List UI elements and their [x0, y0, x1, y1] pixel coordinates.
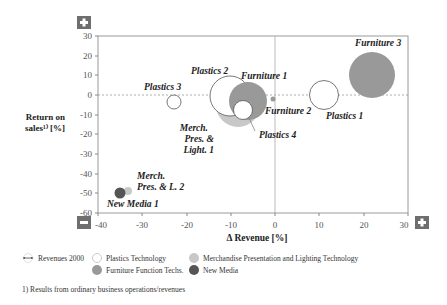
legend-item-newmedia: New Media: [189, 265, 238, 275]
x-tick: -10: [225, 220, 237, 230]
furniture-swatch-icon: [92, 265, 102, 275]
label-plastics-4: Plastics 4: [259, 130, 296, 140]
y-tick: 0: [88, 90, 93, 100]
legend-item-plastics: Plastics Technology: [92, 253, 166, 263]
x-tick: 20: [360, 220, 370, 230]
legend-item-merch: Merchandise Presentation and Lighting Te…: [189, 253, 358, 263]
label-merch-1-line1: Merch.: [179, 123, 208, 133]
label-furniture-3: Furniture 3: [354, 38, 401, 48]
x-axis: -40 -30 -20 -10 0 10 20 30: [95, 213, 409, 230]
newmedia-swatch-icon: [189, 265, 199, 275]
label-new-media-1: New Media 1: [106, 199, 159, 209]
legend-label: Merchandise Presentation and Lighting Te…: [203, 254, 358, 263]
bubble-new-media-1: [115, 188, 126, 199]
legend-item-revenues: Revenues 2000: [22, 253, 84, 263]
revenues-size-icon: [22, 253, 34, 263]
bubble-plastics-4: [234, 101, 253, 120]
label-furniture-2: Furniture 2: [264, 106, 311, 116]
label-furniture-1: Furniture 1: [240, 71, 287, 81]
x-tick: 30: [400, 220, 410, 230]
footnote: 1) Results from ordinary business operat…: [22, 285, 185, 294]
x-tick: 10: [315, 220, 325, 230]
x-tick: -20: [181, 220, 193, 230]
legend-label: Plastics Technology: [106, 254, 166, 263]
y-tick: -40: [80, 169, 92, 179]
y-tick: -50: [80, 188, 92, 198]
label-plastics-2: Plastics 2: [191, 66, 228, 76]
legend-label: New Media: [203, 266, 238, 275]
label-plastics-3: Plastics 3: [144, 82, 181, 92]
label-plastics-1: Plastics 1: [326, 111, 363, 121]
y-axis-title-line1: Return on: [26, 112, 65, 122]
x-axis-title: Δ Revenue [%]: [227, 233, 288, 243]
y-tick: 10: [83, 70, 93, 80]
y-tick: -30: [80, 149, 92, 159]
legend-item-furniture: Furniture Function Techs.: [92, 265, 183, 275]
label-merch-1-line3: Light. 1: [182, 145, 214, 155]
bubble-furniture-2: [271, 97, 276, 102]
y-axis-title-line2: sales¹⁾ [%]: [25, 123, 65, 133]
plus-icon: [415, 216, 429, 229]
bubble-plastics-1: [310, 81, 339, 110]
x-tick: -40: [95, 220, 107, 230]
bubble-plastics-3: [167, 95, 181, 109]
minus-icon: [77, 216, 91, 229]
legend-label: Revenues 2000: [38, 254, 84, 263]
x-tick: -30: [136, 220, 148, 230]
y-axis: 30 20 10 0 -10 -20 -30 -40 -50 -60: [80, 31, 98, 218]
y-tick: -20: [80, 129, 92, 139]
x-tick: 0: [273, 220, 278, 230]
label-merch-2-line1: Merch.: [136, 171, 165, 181]
bubble-furniture-3: [349, 52, 395, 98]
legend-label: Furniture Function Techs.: [106, 266, 183, 275]
y-tick: 20: [83, 51, 93, 61]
merch-swatch-icon: [189, 253, 199, 263]
y-tick: -10: [80, 110, 92, 120]
label-merch-2-line2: Pres. & L. 2: [137, 182, 184, 192]
plastics-swatch-icon: [92, 253, 102, 263]
y-tick: 30: [83, 31, 93, 41]
plus-icon: [77, 16, 91, 29]
label-merch-1-line2: Pres. &: [184, 134, 214, 144]
